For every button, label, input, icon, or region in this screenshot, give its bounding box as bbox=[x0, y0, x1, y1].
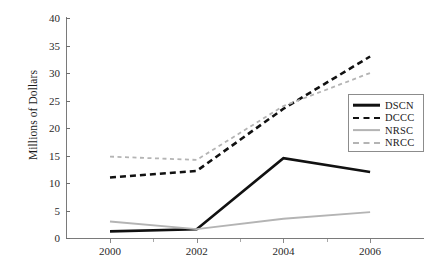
x-axis-tick-mark bbox=[197, 239, 198, 243]
y-axis-tick-mark bbox=[66, 211, 70, 212]
x-axis-tick-mark bbox=[283, 239, 284, 243]
y-axis-tick-mark bbox=[66, 73, 70, 74]
x-axis-minor-tick-mark bbox=[240, 239, 241, 242]
x-axis-minor-tick-mark bbox=[153, 239, 154, 242]
x-axis-tick-label: 2006 bbox=[347, 245, 393, 257]
x-axis-tick-mark bbox=[370, 239, 371, 243]
x-axis-tick-label: 2004 bbox=[260, 245, 306, 257]
legend-item: NRCC bbox=[349, 137, 423, 150]
legend-swatch-dccc bbox=[353, 113, 380, 123]
legend-swatch-dscn bbox=[353, 100, 380, 110]
legend-label-dccc: DCCC bbox=[380, 112, 414, 123]
series-group bbox=[110, 57, 370, 232]
legend-item: DCCC bbox=[349, 112, 423, 125]
x-axis-minor-tick-mark bbox=[327, 239, 328, 242]
legend-item: NRSC bbox=[349, 124, 423, 137]
series-line-dscn bbox=[110, 158, 370, 231]
legend-label-nrcc: NRCC bbox=[380, 137, 414, 148]
legend-label-dscn: DSCN bbox=[380, 100, 414, 111]
y-axis-tick-mark bbox=[66, 101, 70, 102]
x-axis-tick-label: 2002 bbox=[174, 245, 220, 257]
y-axis-tick-mark bbox=[66, 46, 70, 47]
series-line-nrcc bbox=[110, 73, 370, 160]
line-chart: Millions of Dollars 0510152025303540 DSC… bbox=[0, 0, 430, 274]
series-line-dccc bbox=[110, 57, 370, 178]
legend-item: DSCN bbox=[349, 99, 423, 112]
y-axis-tick-mark bbox=[66, 238, 70, 239]
x-axis-tick-mark bbox=[110, 239, 111, 243]
series-line-nrsc bbox=[110, 212, 370, 229]
y-axis-tick-mark bbox=[66, 128, 70, 129]
x-axis-tick-label: 2000 bbox=[87, 245, 133, 257]
y-axis-tick-mark bbox=[66, 18, 70, 19]
legend: DSCN DCCC NRSC NRCC bbox=[348, 94, 424, 152]
legend-swatch-nrsc bbox=[353, 125, 380, 135]
legend-swatch-nrcc bbox=[353, 138, 380, 148]
y-axis-tick-mark bbox=[66, 156, 70, 157]
legend-label-nrsc: NRSC bbox=[380, 125, 413, 136]
y-axis-tick-mark bbox=[66, 183, 70, 184]
